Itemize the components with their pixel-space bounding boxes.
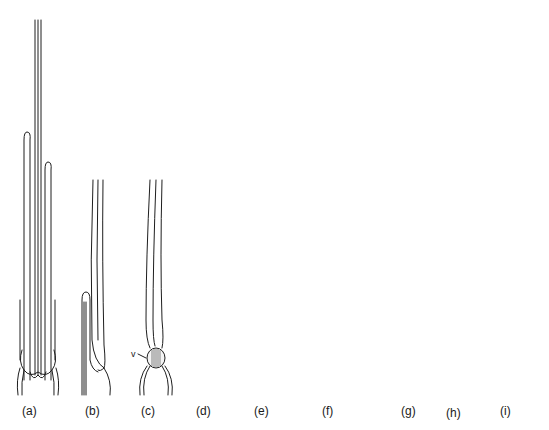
panel-a-drawing [17, 20, 58, 395]
panel-label-b: (b) [85, 404, 100, 418]
panel-label-i: (i) [500, 404, 511, 418]
panel-label-f: (f) [322, 404, 333, 418]
panel-label-h: (h) [446, 406, 461, 420]
panel-label-c: (c) [141, 404, 155, 418]
panel-label-e: (e) [254, 404, 269, 418]
panel-label-a: (a) [22, 404, 37, 418]
panel-label-g: (g) [401, 404, 416, 418]
panel-label-d: (d) [196, 404, 211, 418]
diagram-figure [0, 0, 549, 430]
panel-b-drawing [82, 180, 110, 395]
panel-c-drawing [138, 180, 172, 395]
annotation-v: v [131, 349, 136, 359]
